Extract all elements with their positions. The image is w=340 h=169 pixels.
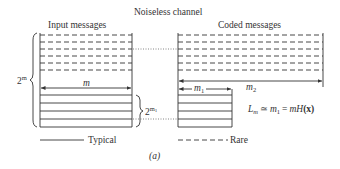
input-messages-heading: Input messages <box>48 20 107 30</box>
coded-messages-heading: Coded messages <box>218 20 281 30</box>
diagram-title: Noiseless channel <box>134 7 203 17</box>
legend-typical-label: Typical <box>88 135 117 145</box>
typical-brace-icon <box>136 95 143 127</box>
noiseless-channel-diagram: Noiseless channel Input messages m 2m 2m… <box>0 0 340 169</box>
length-equation: Lm≃m1=mH(x) <box>247 104 314 115</box>
typical-width-label: m1 <box>194 83 204 94</box>
total-brace-icon <box>30 33 37 127</box>
legend-rare-label: Rare <box>230 135 248 145</box>
figure-caption: (a) <box>149 151 160 162</box>
rare-width-label: m2 <box>246 82 256 93</box>
total-count-label: 2m <box>17 74 27 86</box>
typical-count-label: 2m1 <box>145 105 158 117</box>
diagram-canvas: Noiseless channel Input messages m 2m 2m… <box>0 0 340 169</box>
input-width-label: m <box>83 78 90 88</box>
legend: Typical Rare <box>40 135 248 145</box>
